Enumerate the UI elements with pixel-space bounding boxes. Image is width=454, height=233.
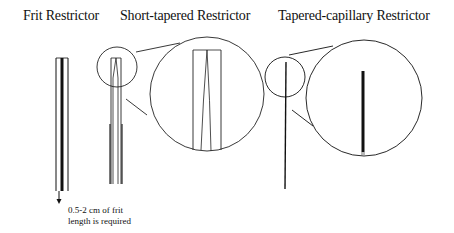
- frit-length-note-line2: length is required: [68, 216, 131, 227]
- arrow-down-icon: [57, 199, 62, 204]
- frit-length-note-line1: 0.5-2 cm of frit: [68, 205, 131, 216]
- frit-restrictor-drawing: [56, 58, 68, 201]
- short-tapered-magnified-view: [150, 37, 264, 151]
- tapered-capillary-restrictor-drawing: [265, 46, 333, 189]
- restrictor-diagram: [0, 0, 454, 233]
- tapered-capillary-magnified-view: [306, 40, 422, 156]
- frit-length-note: 0.5-2 cm of frit length is required: [68, 205, 131, 227]
- short-tapered-restrictor-drawing: [97, 43, 180, 184]
